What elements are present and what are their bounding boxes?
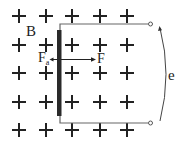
force-label-fa: Fa [38,51,49,67]
force-label-fa-main: F [38,50,46,65]
top-rail [60,24,148,31]
force-f-arrowhead-icon [91,57,96,61]
circuit-drawing [0,0,185,142]
force-label-fa-subscript: a [46,58,50,67]
emf-label-e: e [168,68,175,83]
force-fa-arrowhead-icon [50,58,54,62]
top-terminal-icon [149,22,153,26]
diagram-canvas: B F Fa e [0,0,185,142]
force-label-f: F [97,52,105,66]
field-label-b: B [26,24,36,39]
bottom-terminal-icon [149,121,153,125]
emf-arc [160,28,166,121]
emf-arrowhead-icon [158,26,162,31]
conducting-rod [57,30,62,116]
bottom-rail [60,115,148,123]
